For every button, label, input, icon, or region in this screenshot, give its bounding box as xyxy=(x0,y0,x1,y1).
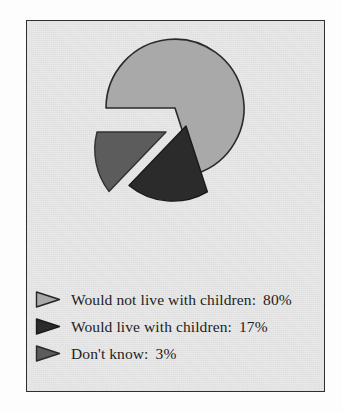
legend-value: 3% xyxy=(156,345,177,363)
legend-item-would-not-live-with-children[interactable]: Would not live with children: 80% xyxy=(27,286,325,313)
legend-label: Would live with children: xyxy=(71,318,232,336)
chart-panel: Would not live with children: 80% Would … xyxy=(26,20,325,392)
legend-marker-would-live-with-children xyxy=(35,317,61,336)
legend-label: Would not live with children: xyxy=(71,291,256,309)
legend-marker-would-not-live-with-children xyxy=(35,290,61,309)
legend-label: Don't know: xyxy=(71,345,149,363)
pie-chart-figure: Would not live with children: 80% Would … xyxy=(0,0,342,411)
legend-item-dont-know[interactable]: Don't know: 3% xyxy=(27,340,325,367)
legend-item-would-live-with-children[interactable]: Would live with children: 17% xyxy=(27,313,325,340)
legend-marker-dont-know xyxy=(35,344,61,363)
chart-legend: Would not live with children: 80% Would … xyxy=(27,286,325,367)
pie-plot-area xyxy=(27,21,325,283)
legend-value: 80% xyxy=(263,291,292,309)
pie-svg xyxy=(27,21,325,283)
legend-value: 17% xyxy=(239,318,268,336)
